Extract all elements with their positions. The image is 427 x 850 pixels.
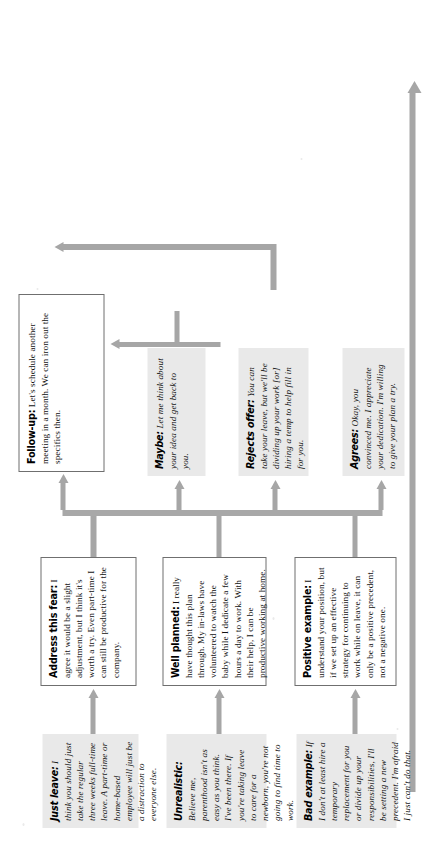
node-agrees-lead: Agrees:: [348, 429, 359, 469]
arrowhead-bad-example-to-positive-example: [350, 689, 360, 698]
connector-rejects-offer-rail: [62, 244, 274, 250]
connector-unrealistic-to-well-planned: [216, 698, 221, 734]
node-rejects-offer-lead: Rejects offer:: [244, 399, 255, 469]
connector-maybe-to-follow-up-riser: [118, 342, 176, 347]
node-maybe[interactable]: Maybe: Let me think about your idea and …: [147, 348, 205, 476]
connector-address-this-fear-to-trunk: [90, 513, 96, 557]
arrowhead-unrealistic-to-well-planned: [214, 689, 224, 698]
connector-maybe-to-follow-up: [176, 342, 220, 347]
connector-well-planned-to-trunk: [216, 513, 221, 557]
arrowhead-trunk-to-maybe: [174, 480, 184, 489]
scanned-page: Just leave: I think you should just take…: [0, 0, 427, 850]
scan-speck: [36, 288, 38, 290]
arrowhead-trunk-to-agrees: [376, 480, 386, 489]
node-rejects-offer[interactable]: Rejects offer: You can take your leave, …: [238, 348, 308, 476]
node-positive-example-lead: Positive example:: [301, 585, 312, 678]
arrowhead-just-leave-to-address-this-fear: [88, 689, 98, 698]
connector-trunk-to-follow-up: [60, 482, 65, 510]
connector-feedback-loop: [409, 92, 415, 792]
connector-positive-example-to-trunk: [352, 513, 357, 557]
node-address-this-fear-lead: Address this fear:: [47, 585, 58, 678]
node-unrealistic-lead: Unrealistic:: [172, 761, 183, 821]
node-unrealistic[interactable]: Unrealistic: Believe me, parenthood isn'…: [166, 734, 266, 828]
connector-trunk-to-rejects-offer: [272, 488, 277, 510]
node-positive-example[interactable]: Positive example: I understand your posi…: [294, 557, 396, 686]
node-address-this-fear-body: I agree it would be a slight adjustment,…: [48, 567, 120, 678]
flowchart-canvas: Just leave: I think you should just take…: [0, 0, 427, 850]
arrowhead-trunk-to-rejects-offer: [270, 480, 280, 489]
node-address-this-fear[interactable]: Address this fear: I agree it would be a…: [40, 557, 136, 686]
node-bad-example-lead: Bad example:: [302, 750, 313, 821]
node-maybe-lead: Maybe:: [153, 431, 164, 469]
node-just-leave-lead: Just leave:: [48, 766, 59, 821]
arrowhead-trunk-to-follow-up: [58, 474, 68, 483]
arrowhead-feedback-loop: [407, 81, 421, 93]
node-well-planned[interactable]: Well planned: I really have thought this…: [162, 557, 266, 686]
connector-trunk-to-maybe: [176, 488, 181, 510]
node-just-leave[interactable]: Just leave: I think you should just take…: [42, 734, 138, 828]
node-just-leave-body: I think you should just take the regular…: [49, 742, 157, 821]
scan-speck: [272, 617, 274, 620]
node-positive-example-body: I understand your position, but if we se…: [302, 567, 386, 678]
connector-rejects-offer-to-rail: [270, 244, 276, 290]
node-follow-up-lead: Follow-up:: [25, 410, 36, 464]
node-unrealistic-body: Believe me, parenthood isn't as easy as …: [186, 744, 294, 821]
node-bad-example-body: If I don't at least hire a temporary rep…: [303, 742, 411, 821]
connector-just-leave-to-address-this-fear: [90, 698, 95, 734]
connector-bad-example-to-positive-example: [352, 698, 357, 734]
node-follow-up[interactable]: Follow-up: Let's schedule another meetin…: [18, 294, 104, 472]
node-agrees[interactable]: Agrees: Okay, you convinced me. I apprec…: [342, 348, 404, 476]
connector-trunk-to-agrees: [378, 488, 383, 510]
node-well-planned-lead: Well planned:: [169, 606, 180, 678]
scan-speck: [300, 158, 302, 160]
arrowhead-rejects-offer-to-follow-up: [54, 242, 63, 252]
node-bad-example[interactable]: Bad example: If I don't at least hire a …: [296, 734, 396, 828]
scan-speck: [396, 728, 398, 730]
connector-trunk-vertical: [62, 510, 382, 516]
scan-speck: [22, 823, 24, 826]
node-well-planned-body: I really have thought this plan through.…: [170, 569, 266, 678]
